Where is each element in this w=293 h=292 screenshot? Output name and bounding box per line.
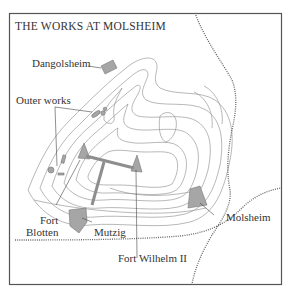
label-molsheim: Molsheim bbox=[226, 211, 271, 223]
molsheim-marker bbox=[188, 186, 207, 208]
fort-wilhelm-ii-marker bbox=[131, 155, 142, 172]
label-fort-blotten-line1: Fort bbox=[40, 214, 58, 226]
outer-works-marker bbox=[101, 111, 105, 115]
label-dangolsheim: Dangolsheim bbox=[32, 57, 91, 69]
mutzig-marker bbox=[69, 208, 87, 233]
map-title: THE WORKS AT MOLSHEIM bbox=[15, 20, 166, 32]
map-canvas: THE WORKS AT MOLSHEIM bbox=[0, 0, 293, 292]
roads bbox=[15, 13, 281, 284]
outer-works-marker bbox=[61, 155, 66, 164]
outer-works-marker bbox=[103, 107, 107, 111]
dangolsheim-marker bbox=[101, 60, 117, 74]
label-fort-wilhelm-ii: Fort Wilhelm II bbox=[118, 252, 187, 264]
outer-works-marker bbox=[58, 173, 64, 175]
map-frame bbox=[10, 14, 282, 285]
label-fort-blotten-line2: Blotten bbox=[26, 226, 59, 238]
label-mutzig: Mutzig bbox=[94, 226, 126, 238]
label-outer-works: Outer works bbox=[16, 94, 71, 106]
outer-works-marker bbox=[48, 167, 54, 173]
